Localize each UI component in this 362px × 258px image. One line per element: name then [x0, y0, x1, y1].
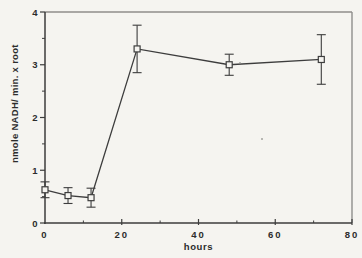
x-tick-label: 0 — [41, 229, 48, 240]
scan-speck — [261, 138, 263, 140]
y-tick-label: 2 — [32, 112, 37, 123]
y-tick-label: 4 — [32, 7, 38, 18]
chart-canvas: 02040608001234 — [0, 0, 362, 258]
scan-speck — [239, 62, 241, 64]
y-tick-label: 1 — [32, 165, 38, 176]
x-tick-label: 80 — [345, 229, 360, 240]
y-tick-label: 0 — [32, 218, 37, 229]
data-point-marker — [88, 195, 94, 201]
x-tick-label: 60 — [268, 229, 283, 240]
x-tick-label: 40 — [191, 229, 206, 240]
figure: 02040608001234 nmole NADH/ min. x root h… — [0, 0, 362, 258]
data-line — [45, 49, 321, 198]
data-point-marker — [134, 46, 140, 52]
x-axis-title: hours — [45, 241, 352, 252]
x-tick-label: 20 — [114, 229, 129, 240]
data-point-marker — [42, 187, 48, 193]
y-axis-title: nmole NADH/ min. x root — [9, 51, 20, 163]
data-point-marker — [65, 193, 71, 199]
y-tick-label: 3 — [32, 59, 37, 70]
data-point-marker — [226, 62, 232, 68]
data-point-marker — [318, 56, 324, 62]
